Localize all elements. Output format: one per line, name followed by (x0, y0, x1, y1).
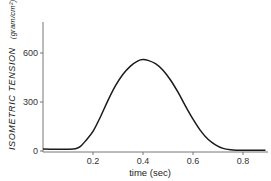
y-tick-label: 300 (23, 97, 38, 107)
y-axis-label-main: ISOMETRIC TENSION (7, 47, 17, 150)
x-tick-label: 0.8 (237, 156, 250, 166)
series-line-tension (43, 60, 266, 151)
x-tick-label: 0.4 (137, 156, 150, 166)
y-tick-label: 0 (33, 146, 38, 156)
y-tick-label: 600 (23, 48, 38, 58)
chart: 03006000.20.40.60.8 time (sec) ISOMETRIC… (0, 0, 271, 181)
x-tick-label: 0.6 (187, 156, 200, 166)
axes (43, 22, 268, 152)
ticks: 03006000.20.40.60.8 (23, 48, 249, 166)
y-axis-label: ISOMETRIC TENSION (gram/cm²) (7, 0, 17, 150)
x-axis-label: time (sec) (129, 167, 171, 178)
series-layer (43, 60, 266, 151)
y-axis-label-unit: (gram/cm²) (8, 0, 17, 39)
x-tick-label: 0.2 (87, 156, 100, 166)
